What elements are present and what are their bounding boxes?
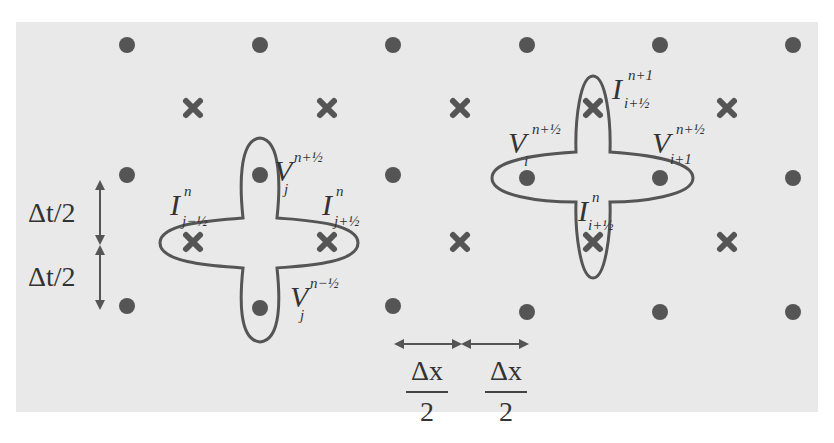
- leapfrog-grid-diagram: V n+½ j I n j−½ I n j+½ V n−½ j I n+1 i+…: [0, 0, 834, 443]
- label-i-i-plus-half-n-plus-1: I n+1 i+½: [612, 74, 622, 104]
- label-i-i-plus-half-n: I n i+½: [578, 196, 588, 226]
- label-v-j-n-plus-half: V n+½ j: [274, 156, 292, 186]
- dt-half-lower-label: Δt/2: [28, 263, 76, 291]
- label-i-j-minus-half-n: I n j−½: [170, 190, 180, 220]
- label-v-j-n-minus-half: V n−½ j: [290, 282, 308, 312]
- label-i-j-plus-half-n: I n j+½: [322, 190, 332, 220]
- dx-half-right-label: Δx 2: [481, 356, 531, 428]
- label-v-i-n-plus-half: V n+½ i: [508, 128, 526, 158]
- current-crosses: [186, 101, 734, 249]
- voltage-dots: [119, 37, 801, 320]
- dx-half-left-label: Δx 2: [402, 356, 452, 428]
- label-v-i-plus-1-n-plus-half: V n+½ i+1: [652, 128, 670, 158]
- dt-half-upper-label: Δt/2: [28, 199, 76, 227]
